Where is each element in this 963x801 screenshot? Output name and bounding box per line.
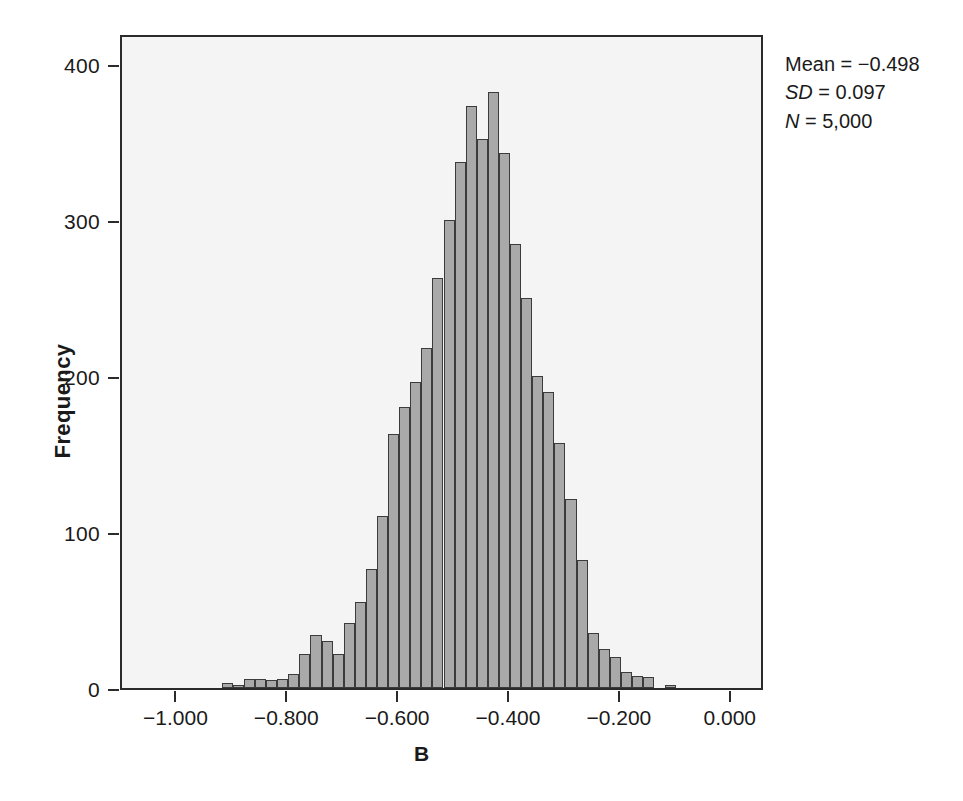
histogram-bar	[244, 679, 255, 688]
histogram-bar	[255, 679, 266, 688]
histogram-bar	[233, 685, 244, 688]
histogram-bar	[532, 376, 543, 688]
histogram-bar	[266, 680, 277, 688]
x-axis-tick-label: −0.200	[586, 706, 651, 730]
stat-sd-value: = 0.097	[813, 81, 886, 103]
y-axis-tick-label: 300	[0, 210, 100, 234]
y-axis-tick-label: 200	[0, 366, 100, 390]
stat-n-value: = 5,000	[799, 110, 872, 132]
histogram-bar	[510, 244, 521, 688]
y-axis-tick-labels: 0100200300400	[0, 0, 100, 801]
histogram-bar	[466, 106, 477, 688]
stat-mean-value: = −0.498	[835, 53, 920, 75]
y-axis-tick-mark	[108, 533, 119, 535]
x-axis-tick-label: 0.000	[703, 706, 756, 730]
y-axis-tick-mark	[108, 377, 119, 379]
histogram-bar	[543, 392, 554, 688]
stat-n: N = 5,000	[785, 107, 920, 135]
x-axis-tick-mark	[507, 691, 509, 702]
x-axis-tick-mark	[618, 691, 620, 702]
plot-frame	[120, 35, 763, 690]
histogram-bar	[344, 623, 355, 689]
histogram-bar	[288, 674, 299, 688]
histogram-bar	[333, 654, 344, 688]
histogram-figure: Frequency 0100200300400 −1.000−0.800−0.6…	[0, 0, 963, 801]
histogram-bar	[410, 382, 421, 688]
y-axis-tick-label: 400	[0, 54, 100, 78]
histogram-bar	[499, 153, 510, 688]
x-axis-tick-label: −0.600	[365, 706, 430, 730]
histogram-bar	[299, 654, 310, 688]
stat-n-label: N	[785, 110, 799, 132]
stat-sd: SD = 0.097	[785, 78, 920, 106]
histogram-bar	[355, 602, 366, 688]
histogram-bar	[377, 516, 388, 688]
x-axis-tick-mark	[174, 691, 176, 702]
histogram-bar	[455, 162, 466, 688]
histogram-bar	[665, 685, 676, 688]
histogram-bar	[599, 649, 610, 688]
histogram-bar	[222, 683, 233, 688]
histogram-bar	[554, 443, 565, 688]
histogram-bar	[432, 278, 443, 688]
y-axis-tick-label: 0	[0, 678, 100, 702]
stat-mean: Mean = −0.498	[785, 50, 920, 78]
plot-area	[122, 37, 761, 688]
histogram-bar	[488, 92, 499, 688]
stat-sd-label: SD	[785, 81, 813, 103]
histogram-bar	[588, 633, 599, 688]
x-axis-tick-label: −0.400	[476, 706, 541, 730]
x-axis-tick-mark	[285, 691, 287, 702]
histogram-bar	[632, 676, 643, 688]
histogram-bar	[643, 677, 654, 688]
x-axis-tick-mark	[396, 691, 398, 702]
y-axis-tick-mark	[108, 689, 119, 691]
histogram-bar	[565, 499, 576, 688]
histogram-bar	[322, 641, 333, 688]
y-axis-tick-mark	[108, 65, 119, 67]
histogram-bar	[577, 560, 588, 688]
histogram-bar	[621, 672, 632, 688]
y-axis-tick-mark	[108, 221, 119, 223]
histogram-bar	[277, 679, 288, 688]
histogram-bar	[399, 407, 410, 688]
histogram-bar	[521, 298, 532, 688]
histogram-bar	[366, 569, 377, 688]
stats-annotation: Mean = −0.498 SD = 0.097 N = 5,000	[785, 50, 920, 135]
x-axis-title-text: B	[414, 742, 429, 765]
histogram-bar	[444, 220, 455, 688]
histogram-bar	[610, 657, 621, 688]
x-axis-title: B	[0, 742, 963, 766]
histogram-bar	[388, 434, 399, 688]
histogram-bar	[421, 348, 432, 688]
x-axis-tick-label: −0.800	[254, 706, 319, 730]
stat-mean-label: Mean	[785, 53, 835, 75]
histogram-bar	[477, 139, 488, 688]
histogram-bar	[310, 635, 321, 688]
x-axis-tick-label: −1.000	[143, 706, 208, 730]
x-axis-tick-mark	[729, 691, 731, 702]
y-axis-tick-label: 100	[0, 522, 100, 546]
